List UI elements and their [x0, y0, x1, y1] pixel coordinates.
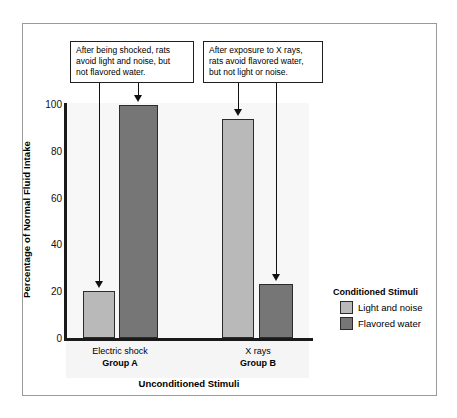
legend-swatch-flavored-water	[340, 317, 353, 330]
callout-b-line-2: rats avoid flavored water,	[209, 56, 318, 67]
x-axis-group-a: Electric shock Group A	[70, 345, 170, 369]
legend-item-flavored-water: Flavored water	[340, 317, 438, 330]
bar-group-b-flavored-water	[259, 284, 293, 338]
y-tick-40: 40	[34, 240, 62, 250]
arrow-line-b-dark	[276, 83, 277, 274]
x-axis-group-a-name: Group A	[70, 357, 170, 369]
legend-title: Conditioned Stimuli	[333, 287, 438, 297]
y-axis-line	[64, 103, 67, 340]
chart-plot-area: 100 80 60 40 20 0 Percentage of Normal F…	[0, 0, 457, 418]
y-tick-80: 80	[34, 147, 62, 157]
chart-legend: Conditioned Stimuli Light and noise Flav…	[333, 287, 438, 333]
x-axis-group-b-name: Group B	[208, 357, 308, 369]
x-axis-group-a-label: Electric shock	[70, 345, 170, 357]
arrow-line-a-dark	[138, 83, 139, 95]
legend-swatch-light-and-noise	[340, 301, 353, 314]
y-tick-60: 60	[34, 194, 62, 204]
callout-b-line-3: but not light or noise.	[209, 67, 318, 78]
x-axis-line	[64, 338, 313, 341]
arrow-head-a-light	[95, 281, 103, 288]
bar-group-a-flavored-water	[119, 105, 158, 338]
callout-box-group-b: After exposure to X rays, rats avoid fla…	[203, 41, 323, 83]
callout-box-group-a: After being shocked, rats avoid light an…	[70, 41, 194, 83]
callout-b-line-1: After exposure to X rays,	[209, 45, 318, 56]
x-axis-title: Unconditioned Stimuli	[64, 378, 314, 389]
x-axis-group-b: X rays Group B	[208, 345, 308, 369]
callout-a-line-2: avoid light and noise, but	[76, 56, 189, 67]
legend-label-flavored-water: Flavored water	[358, 318, 421, 329]
callout-a-line-1: After being shocked, rats	[76, 45, 189, 56]
legend-item-light-and-noise: Light and noise	[340, 301, 438, 314]
bar-group-a-light-and-noise	[83, 291, 115, 338]
y-tick-20: 20	[34, 287, 62, 297]
y-axis-ticks: 100 80 60 40 20 0	[30, 0, 62, 418]
legend-label-light-and-noise: Light and noise	[358, 302, 422, 313]
arrow-head-a-dark	[134, 95, 142, 102]
callout-a-line-3: not flavored water.	[76, 67, 189, 78]
y-tick-100: 100	[34, 100, 62, 110]
bar-group-b-light-and-noise	[222, 119, 254, 338]
arrow-head-b-dark	[272, 274, 280, 281]
arrow-line-a-light	[99, 83, 100, 281]
x-axis-group-b-label: X rays	[208, 345, 308, 357]
y-tick-0: 0	[34, 334, 62, 344]
arrow-head-b-light	[234, 109, 242, 116]
y-axis-title: Percentage of Normal Fluid Intake	[21, 120, 32, 320]
arrow-line-b-light	[238, 83, 239, 109]
